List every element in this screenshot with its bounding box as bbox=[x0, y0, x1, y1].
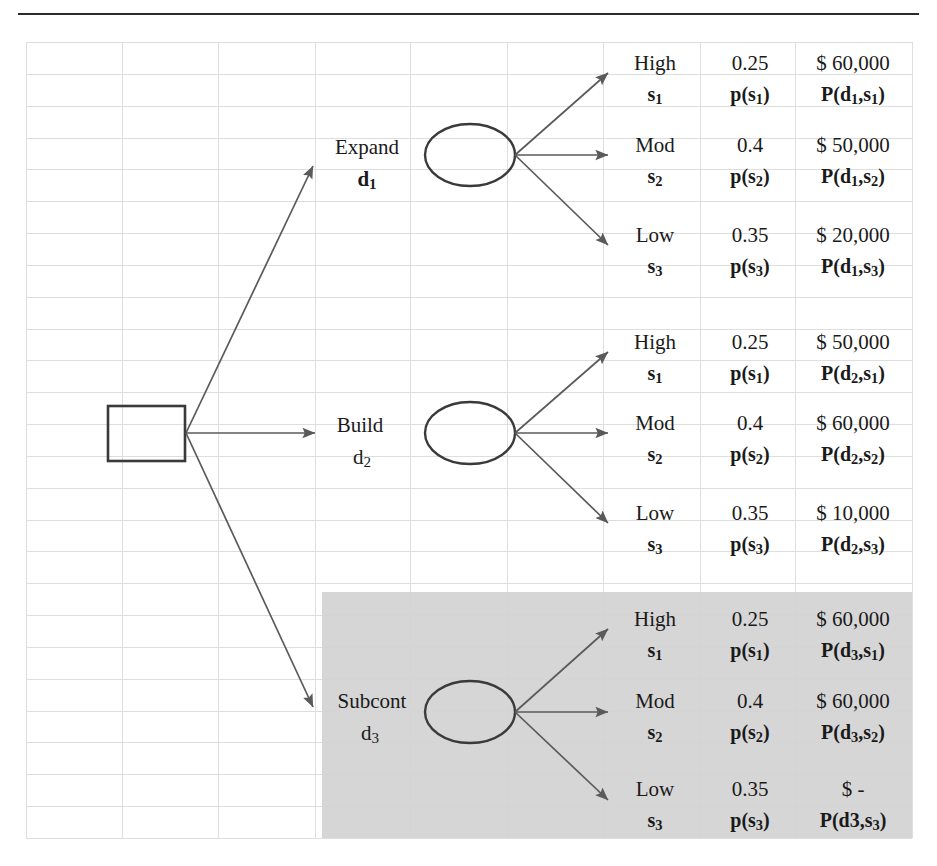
outcome-payoff-d3-s3: $ - bbox=[842, 778, 865, 800]
outcome-payoff-d2-s1: $ 50,000 bbox=[816, 331, 890, 353]
outcome-probability-d3-s2: 0.4 bbox=[737, 690, 763, 712]
outcome-payoff-id-d2-s3: P(d2,s3) bbox=[821, 534, 885, 557]
outcome-payoff-id-d2-s2: P(d2,s2) bbox=[821, 444, 885, 467]
outcome-state-d3-s2: Mod bbox=[635, 690, 675, 712]
outcome-arrow-d1-s1 bbox=[515, 73, 608, 155]
outcome-payoff-id-d1-s2: P(d1,s2) bbox=[821, 166, 885, 189]
outcome-state-id-d1-s3: s3 bbox=[648, 256, 663, 279]
outcome-probability-d2-s3: 0.35 bbox=[732, 502, 769, 524]
outcome-state-id-d2-s1: s1 bbox=[648, 363, 663, 386]
outcome-payoff-id-d1-s1: P(d1,s1) bbox=[821, 84, 885, 107]
outcome-state-d3-s1: High bbox=[634, 608, 676, 630]
outcome-payoff-d3-s1: $ 60,000 bbox=[816, 608, 890, 630]
outcome-probability-id-d2-s2: p(s2) bbox=[730, 444, 769, 467]
chance-node-subcont[interactable] bbox=[425, 681, 515, 743]
outcome-state-d2-s2: Mod bbox=[635, 412, 675, 434]
outcome-state-d2-s1: High bbox=[634, 331, 676, 353]
outcome-probability-id-d3-s2: p(s2) bbox=[730, 722, 769, 745]
outcome-arrow-d2-s1 bbox=[515, 352, 608, 433]
decision-id-d3: d3 bbox=[361, 722, 379, 747]
outcome-state-id-d2-s2: s2 bbox=[648, 444, 663, 467]
decision-label-subcont: Subcont bbox=[338, 690, 407, 712]
outcome-probability-id-d1-s2: p(s2) bbox=[730, 166, 769, 189]
outcome-probability-id-d1-s3: p(s3) bbox=[730, 256, 769, 279]
outcome-probability-id-d3-s3: p(s3) bbox=[730, 810, 769, 833]
root-decision-node[interactable] bbox=[108, 406, 185, 461]
outcome-probability-d2-s2: 0.4 bbox=[737, 412, 763, 434]
outcome-payoff-id-d3-s3: P(d3,s3) bbox=[820, 810, 887, 833]
outcome-probability-d1-s3: 0.35 bbox=[732, 224, 769, 246]
outcome-state-id-d1-s1: s1 bbox=[648, 84, 663, 107]
chance-node-build[interactable] bbox=[425, 402, 515, 464]
outcome-state-id-d3-s1: s1 bbox=[648, 640, 663, 663]
outcome-arrow-d3-s3 bbox=[515, 712, 608, 800]
decision-id-d1: d1 bbox=[357, 168, 376, 193]
outcome-payoff-d1-s3: $ 20,000 bbox=[816, 224, 890, 246]
outcome-payoff-d2-s2: $ 60,000 bbox=[816, 412, 890, 434]
outcome-payoff-d1-s1: $ 60,000 bbox=[816, 52, 890, 74]
chance-node-expand[interactable] bbox=[425, 124, 515, 186]
outcome-probability-d2-s1: 0.25 bbox=[732, 331, 769, 353]
outcome-arrow-d1-s3 bbox=[515, 155, 608, 245]
branch-subcont-arrow bbox=[186, 433, 313, 707]
outcome-probability-d3-s3: 0.35 bbox=[732, 778, 769, 800]
tree-graphics bbox=[0, 0, 937, 866]
outcome-state-id-d3-s2: s2 bbox=[648, 722, 663, 745]
outcome-probability-d3-s1: 0.25 bbox=[732, 608, 769, 630]
outcome-probability-id-d2-s3: p(s3) bbox=[730, 534, 769, 557]
decision-id-d2: d2 bbox=[353, 446, 371, 471]
outcome-state-d1-s3: Low bbox=[636, 224, 675, 246]
outcome-state-d2-s3: Low bbox=[636, 502, 675, 524]
outcome-state-id-d2-s3: s3 bbox=[648, 534, 663, 557]
outcome-state-d1-s2: Mod bbox=[635, 134, 675, 156]
decision-label-build: Build bbox=[337, 414, 384, 436]
outcome-payoff-d3-s2: $ 60,000 bbox=[816, 690, 890, 712]
outcome-probability-d1-s1: 0.25 bbox=[732, 52, 769, 74]
outcome-arrow-d2-s3 bbox=[515, 433, 608, 523]
outcome-payoff-id-d3-s2: P(d3,s2) bbox=[821, 722, 885, 745]
outcome-probability-d1-s2: 0.4 bbox=[737, 134, 763, 156]
outcome-state-d1-s1: High bbox=[634, 52, 676, 74]
branch-expand-arrow bbox=[186, 166, 313, 433]
outcome-probability-id-d2-s1: p(s1) bbox=[730, 363, 769, 386]
outcome-payoff-id-d3-s1: P(d3,s1) bbox=[821, 640, 885, 663]
outcome-payoff-d2-s3: $ 10,000 bbox=[816, 502, 890, 524]
outcome-state-id-d1-s2: s2 bbox=[648, 166, 663, 189]
decision-tree-figure: Expand d1 Build d2 Subcont d3 Highs10.25… bbox=[0, 0, 937, 866]
outcome-state-d3-s3: Low bbox=[636, 778, 675, 800]
outcome-payoff-id-d1-s3: P(d1,s3) bbox=[821, 256, 885, 279]
outcome-payoff-id-d2-s1: P(d2,s1) bbox=[821, 363, 885, 386]
outcome-probability-id-d1-s1: p(s1) bbox=[730, 84, 769, 107]
outcome-probability-id-d3-s1: p(s1) bbox=[730, 640, 769, 663]
decision-label-expand: Expand bbox=[335, 136, 399, 158]
outcome-arrow-d3-s1 bbox=[515, 629, 608, 712]
outcome-payoff-d1-s2: $ 50,000 bbox=[816, 134, 890, 156]
outcome-state-id-d3-s3: s3 bbox=[648, 810, 663, 833]
